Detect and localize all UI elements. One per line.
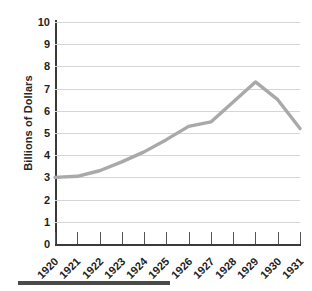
x-tick-label: 1924 [124, 255, 150, 281]
x-tick-label: 1927 [191, 255, 217, 281]
x-tick-label: 1930 [257, 255, 283, 281]
x-tick-label: 1925 [146, 255, 172, 281]
x-tick-label: 1920 [35, 255, 61, 281]
x-tick-label: 1921 [57, 255, 83, 281]
x-tick-label: 1922 [79, 255, 105, 281]
x-tick-label: 1931 [280, 255, 306, 281]
x-tick-label: 1929 [235, 255, 261, 281]
x-axis-tick-labels: 1920192119221923192419251926192719281929… [0, 0, 312, 291]
x-tick-label: 1923 [101, 255, 127, 281]
bottom-rule [18, 281, 170, 285]
x-tick-label: 1928 [213, 255, 239, 281]
x-tick-label: 1926 [168, 255, 194, 281]
line-chart-figure: Billions of Dollars 012345678910 1920192… [0, 0, 312, 291]
